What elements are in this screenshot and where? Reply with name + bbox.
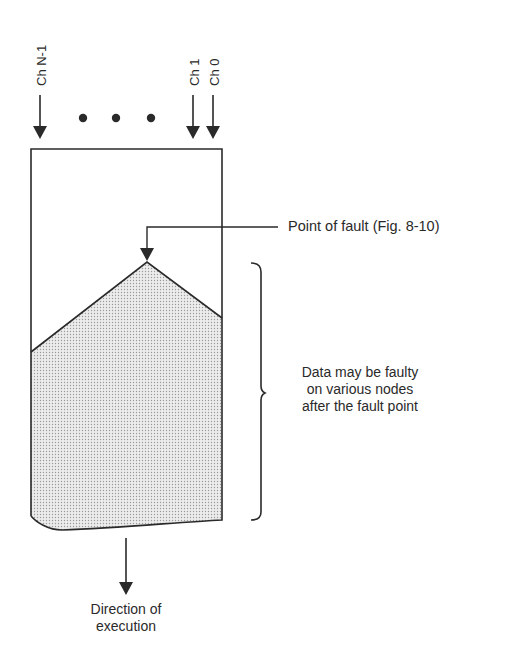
faulty-data-note: Data may be faulty on various nodes afte… <box>268 364 452 415</box>
curly-brace <box>251 263 265 520</box>
channel-label-n-1: Ch N-1 <box>34 45 49 86</box>
faulty-region <box>31 262 222 530</box>
ellipsis-dots <box>79 114 155 122</box>
direction-label: Direction of execution <box>56 601 196 635</box>
fault-pointer-arrow <box>140 227 278 261</box>
fault-point-label: Point of fault (Fig. 8-10) <box>288 218 440 235</box>
faulty-data-line-1: Data may be faulty <box>268 364 452 381</box>
faulty-data-line-2: on various nodes <box>268 381 452 398</box>
diagram-canvas <box>0 0 522 646</box>
channel-arrow-0 <box>206 95 220 139</box>
direction-line-1: Direction of <box>56 601 196 618</box>
channel-label-1: Ch 1 <box>187 59 202 86</box>
direction-arrow <box>119 538 133 595</box>
direction-line-2: execution <box>56 618 196 635</box>
channel-label-0: Ch 0 <box>207 59 222 86</box>
channel-arrow-n-1 <box>33 95 47 139</box>
channel-arrow-1 <box>186 95 200 139</box>
faulty-data-line-3: after the fault point <box>268 398 452 415</box>
